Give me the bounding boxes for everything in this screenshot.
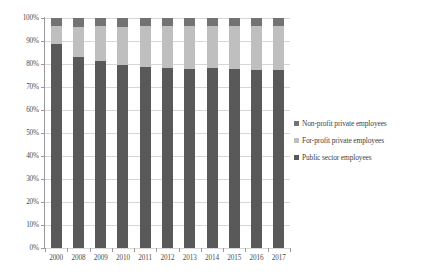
x-axis-tick-label: 2016 (250, 254, 264, 262)
legend-swatch-icon (294, 155, 299, 160)
bar-segment (273, 18, 284, 26)
bar-column (184, 18, 195, 248)
bar-segment (184, 18, 195, 26)
bar-segment (162, 68, 173, 248)
bar-column (73, 18, 84, 248)
y-axis-tick-label: 0% (30, 244, 39, 252)
bar-segment (184, 69, 195, 248)
x-axis-tick-label: 2010 (116, 254, 130, 262)
x-axis-tick-label: 2012 (161, 254, 175, 262)
bar-segment (51, 26, 62, 44)
y-axis-tick-mark (41, 225, 45, 226)
legend-item-label: For-profit private employees (302, 136, 384, 145)
x-axis-tick-label: 2008 (71, 254, 85, 262)
bar-column (162, 18, 173, 248)
y-axis-tick-mark (41, 87, 45, 88)
y-axis-tick-mark (41, 156, 45, 157)
bar-segment (207, 26, 218, 67)
legend-item[interactable]: Public sector employees (294, 150, 426, 164)
x-axis-tick-label: 2015 (227, 254, 241, 262)
y-axis-tick-mark (41, 110, 45, 111)
y-axis-tick-label: 90% (26, 37, 39, 45)
y-axis-tick-mark (41, 64, 45, 65)
bar-segment (162, 18, 173, 26)
bar-segment (251, 26, 262, 70)
x-axis-tick-label: 2009 (94, 254, 108, 262)
legend-item-label: Public sector employees (302, 153, 372, 162)
legend-swatch-icon (294, 138, 299, 143)
bar-segment (184, 26, 195, 69)
bar-segment (229, 18, 240, 26)
stacked-bar-chart: 0%10%20%30%40%50%60%70%80%90%100%2000200… (0, 0, 428, 277)
x-axis-tick-mark (67, 248, 68, 252)
bar-segment (162, 26, 173, 68)
bar-segment (73, 18, 84, 27)
bar-segment (140, 18, 151, 26)
x-axis-tick-mark (179, 248, 180, 252)
x-axis-tick-mark (223, 248, 224, 252)
x-axis-tick-label: 2014 (205, 254, 219, 262)
y-axis-tick-label: 70% (26, 83, 39, 91)
bar-segment (117, 65, 128, 248)
bar-segment (207, 68, 218, 248)
y-axis-tick-mark (41, 133, 45, 134)
bar-segment (273, 70, 284, 248)
x-axis-tick-mark (245, 248, 246, 252)
chart-legend: Non-profit private employeesFor-profit p… (294, 116, 426, 167)
bar-column (117, 18, 128, 248)
y-axis-tick-label: 40% (26, 152, 39, 160)
x-axis-tick-mark (45, 248, 46, 252)
y-axis-tick-label: 10% (26, 221, 39, 229)
bar-column (273, 18, 284, 248)
bar-segment (95, 26, 106, 60)
y-axis-tick-label: 50% (26, 129, 39, 137)
x-axis-tick-mark (290, 248, 291, 252)
bar-column (251, 18, 262, 248)
y-axis-tick-mark (41, 41, 45, 42)
y-axis-tick-mark (41, 18, 45, 19)
bar-column (51, 18, 62, 248)
x-axis-tick-mark (134, 248, 135, 252)
bar-segment (229, 26, 240, 69)
bar-segment (229, 69, 240, 248)
y-axis-tick-label: 20% (26, 198, 39, 206)
legend-item-label: Non-profit private employees (302, 119, 387, 128)
y-axis-tick-mark (41, 202, 45, 203)
bar-segment (117, 18, 128, 27)
bar-segment (251, 18, 262, 26)
x-axis-tick-label: 2013 (183, 254, 197, 262)
legend-swatch-icon (294, 121, 299, 126)
plot-area: 0%10%20%30%40%50%60%70%80%90%100%2000200… (45, 18, 290, 248)
bar-segment (95, 61, 106, 248)
x-axis-tick-mark (112, 248, 113, 252)
bar-column (229, 18, 240, 248)
gridline (45, 248, 290, 249)
x-axis-tick-mark (268, 248, 269, 252)
bar-column (207, 18, 218, 248)
x-axis-tick-label: 2017 (272, 254, 286, 262)
bar-segment (140, 67, 151, 248)
bar-segment (73, 27, 84, 58)
legend-item[interactable]: Non-profit private employees (294, 116, 426, 130)
y-axis-tick-label: 100% (23, 14, 39, 22)
bar-segment (273, 26, 284, 70)
x-axis-tick-label: 2000 (49, 254, 63, 262)
bar-segment (95, 18, 106, 26)
bar-segment (117, 27, 128, 65)
bar-segment (51, 44, 62, 248)
bar-column (95, 18, 106, 248)
y-axis-tick-label: 30% (26, 175, 39, 183)
bar-segment (207, 18, 218, 26)
bar-segment (51, 18, 62, 26)
bar-column (140, 18, 151, 248)
bar-segment (73, 57, 84, 248)
bar-segment (140, 26, 151, 66)
y-axis-tick-mark (41, 179, 45, 180)
y-axis-tick-label: 60% (26, 106, 39, 114)
x-axis-tick-mark (156, 248, 157, 252)
x-axis-tick-label: 2011 (138, 254, 152, 262)
legend-item[interactable]: For-profit private employees (294, 133, 426, 147)
x-axis-tick-mark (90, 248, 91, 252)
x-axis-tick-mark (201, 248, 202, 252)
bar-segment (251, 70, 262, 248)
